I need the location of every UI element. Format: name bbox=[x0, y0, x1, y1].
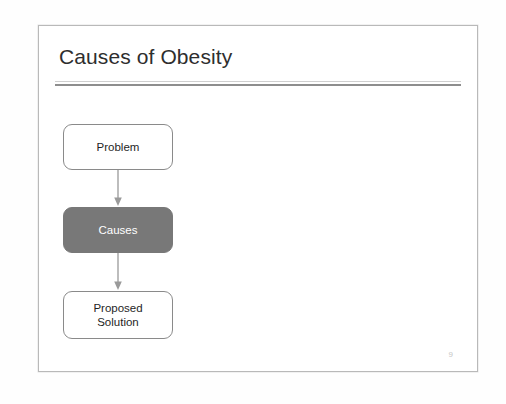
slide-canvas: Causes of Obesity Problem Causes Propose… bbox=[38, 25, 478, 372]
flowchart-node-proposed-solution-label: Proposed Solution bbox=[93, 301, 142, 329]
title-divider-thin-line bbox=[55, 81, 461, 82]
down-arrow-icon bbox=[111, 253, 125, 291]
title-divider bbox=[55, 81, 461, 87]
flowchart-node-problem[interactable]: Problem bbox=[63, 124, 173, 170]
flowchart-connector-causes-to-solution bbox=[111, 253, 125, 291]
flowchart-node-causes[interactable]: Causes bbox=[63, 207, 173, 253]
flowchart-node-proposed-solution[interactable]: Proposed Solution bbox=[63, 291, 173, 339]
flowchart-diagram: Problem Causes Proposed Solution bbox=[63, 124, 183, 339]
title-divider-thick-line bbox=[55, 84, 461, 86]
flowchart-connector-problem-to-causes bbox=[111, 170, 125, 207]
down-arrow-icon bbox=[111, 170, 125, 207]
page-title: Causes of Obesity bbox=[59, 44, 232, 70]
flowchart-node-problem-label: Problem bbox=[97, 140, 140, 154]
slide-page-number: 9 bbox=[449, 350, 453, 359]
flowchart-node-causes-label: Causes bbox=[99, 223, 138, 237]
